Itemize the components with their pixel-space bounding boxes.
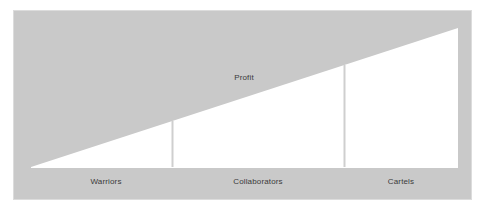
- stage-label-cartels: Cartels: [388, 177, 414, 186]
- diagram-root: Profit Warriors Collaborators Cartels: [0, 0, 487, 212]
- profit-stage-diagram: Profit Warriors Collaborators Cartels: [0, 0, 487, 212]
- profit-label: Profit: [234, 73, 254, 82]
- stage-label-warriors: Warriors: [90, 177, 121, 186]
- stage-label-collaborators: Collaborators: [233, 177, 283, 186]
